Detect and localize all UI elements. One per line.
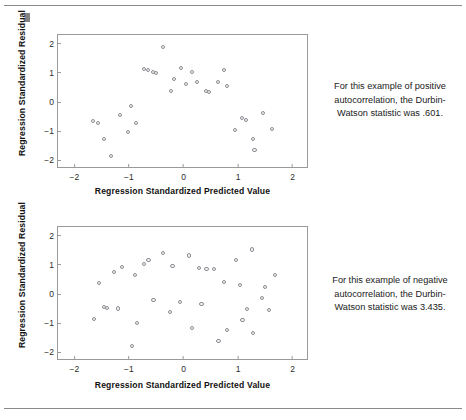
- x-axis-label: Regression Standardized Predicted Value: [57, 380, 308, 390]
- plot-area: −2−1012−2−1012: [57, 226, 308, 360]
- y-tick-mark: [58, 43, 61, 44]
- x-tick-mark: [128, 356, 129, 359]
- x-axis-tick: −2: [70, 359, 80, 374]
- scatter-point: [273, 273, 277, 277]
- scatter-point: [172, 77, 176, 81]
- scatter-point: [245, 307, 249, 311]
- scatter-point: [222, 68, 226, 72]
- scatter-point: [161, 251, 165, 255]
- scatter-point: [263, 285, 267, 289]
- x-tick-mark: [128, 164, 129, 167]
- scatter-point: [130, 344, 134, 348]
- scatter-point: [251, 137, 255, 141]
- bottom-divider-rule: [4, 408, 462, 409]
- scatter-point: [178, 300, 182, 304]
- scatter-point: [146, 258, 150, 262]
- scatter-point: [234, 258, 238, 262]
- scatter-point: [204, 267, 208, 271]
- top-divider-rule: [4, 5, 462, 6]
- x-axis-tick: 1: [236, 167, 241, 182]
- y-tick-mark: [58, 72, 61, 73]
- y-axis-tick: −1: [44, 126, 58, 136]
- scatter-point: [244, 118, 248, 122]
- x-axis-tick: 0: [181, 359, 186, 374]
- scatter-point: [151, 298, 155, 302]
- scatter-point: [129, 104, 133, 108]
- scatter-point: [216, 339, 220, 343]
- panel-negative-autocorrelation: Regression Standardized Residual −2−1012…: [0, 206, 466, 402]
- x-axis-tick: 0: [181, 167, 186, 182]
- scatter-point: [154, 71, 158, 75]
- scatter-point: [133, 273, 137, 277]
- scatter-point: [116, 306, 120, 310]
- y-axis-tick: 2: [49, 231, 58, 241]
- x-tick-mark: [183, 356, 184, 359]
- scatter-chart-negative: Regression Standardized Residual −2−1012…: [0, 206, 316, 396]
- y-tick-mark: [58, 264, 61, 265]
- scatter-point: [252, 148, 256, 152]
- scatter-point: [207, 90, 211, 94]
- x-axis-tick: 2: [290, 359, 295, 374]
- scatter-point: [97, 281, 101, 285]
- y-axis-tick: −2: [44, 155, 58, 165]
- y-tick-mark: [58, 160, 61, 161]
- scatter-point: [195, 80, 199, 84]
- panel-caption: For this example of positive autocorrela…: [322, 80, 458, 121]
- y-axis-tick: 2: [49, 39, 58, 49]
- x-tick-mark: [292, 356, 293, 359]
- y-tick-mark: [58, 102, 61, 103]
- scatter-point: [190, 326, 194, 330]
- scatter-point: [169, 89, 173, 93]
- scatter-point: [118, 113, 122, 117]
- scatter-point: [190, 70, 194, 74]
- scatter-point: [225, 84, 229, 88]
- scatter-point: [134, 121, 138, 125]
- x-tick-mark: [74, 164, 75, 167]
- y-tick-mark: [58, 235, 61, 236]
- y-axis-tick: 0: [49, 289, 58, 299]
- scatter-point: [102, 137, 106, 141]
- y-axis-label: Regression Standardized Residual: [17, 195, 27, 355]
- plot-area: −2−1012−2−1012: [57, 34, 308, 168]
- panel-positive-autocorrelation: Regression Standardized Residual −2−1012…: [0, 14, 466, 204]
- x-axis-tick: 1: [236, 359, 241, 374]
- scatter-point: [109, 154, 113, 158]
- x-tick-mark: [238, 356, 239, 359]
- x-axis-tick: −2: [70, 167, 80, 182]
- scatter-point: [238, 283, 242, 287]
- scatter-point: [197, 266, 201, 270]
- scatter-point: [250, 247, 254, 251]
- scatter-point: [135, 321, 139, 325]
- y-axis-tick: 1: [49, 260, 58, 270]
- scatter-point: [170, 264, 174, 268]
- x-tick-mark: [238, 164, 239, 167]
- y-axis-tick: 1: [49, 68, 58, 78]
- scatter-point: [112, 270, 116, 274]
- x-axis-tick: −1: [124, 359, 134, 374]
- x-axis-label: Regression Standardized Predicted Value: [57, 186, 308, 196]
- scatter-point: [161, 45, 165, 49]
- scatter-point: [168, 310, 172, 314]
- scatter-point: [146, 68, 150, 72]
- scatter-point: [184, 82, 188, 86]
- scatter-point: [233, 128, 237, 132]
- x-tick-mark: [74, 356, 75, 359]
- scatter-point: [240, 318, 244, 322]
- y-tick-mark: [58, 323, 61, 324]
- scatter-point: [222, 280, 226, 284]
- scatter-point: [179, 66, 183, 70]
- scatter-point: [96, 121, 100, 125]
- scatter-point: [267, 308, 271, 312]
- scatter-point: [120, 265, 124, 269]
- scatter-point: [225, 328, 229, 332]
- y-axis-tick: 0: [49, 97, 58, 107]
- y-tick-mark: [58, 294, 61, 295]
- y-axis-label: Regression Standardized Residual: [17, 3, 27, 163]
- scatter-point: [105, 306, 109, 310]
- scatter-point: [126, 130, 130, 134]
- scatter-point: [270, 127, 274, 131]
- x-axis-tick: 2: [290, 167, 295, 182]
- scatter-point: [212, 267, 216, 271]
- scatter-point: [92, 317, 96, 321]
- scatter-point: [187, 253, 191, 257]
